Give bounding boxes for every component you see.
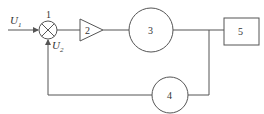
block-3-label: 3 — [148, 25, 153, 36]
block-4-label: 4 — [167, 90, 172, 101]
feedback-signal-label: U2 — [52, 39, 64, 54]
block-diagram: U1 1 2 3 5 4 U2 — [0, 0, 264, 114]
block-1-label: 1 — [46, 9, 51, 20]
summing-junction — [39, 21, 57, 39]
input-signal-label: U1 — [10, 14, 21, 29]
block-2-label: 2 — [85, 25, 90, 36]
amplifier-block-2 — [80, 19, 103, 41]
block-5-label: 5 — [238, 26, 243, 37]
